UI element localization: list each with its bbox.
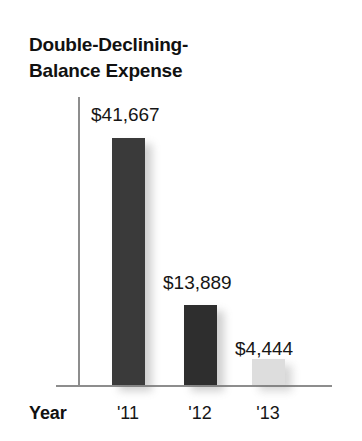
x-tick-label-2013: '13	[248, 403, 288, 424]
bar-fill	[112, 138, 145, 385]
bar-2011	[112, 138, 145, 385]
x-tick-label-2012: '12	[180, 403, 220, 424]
bar-2012	[184, 305, 217, 385]
bar-value-label-2013: $4,444	[235, 338, 293, 360]
plot-area: $41,667 $13,889 $4,444 Year '11 '12 '13	[0, 0, 362, 441]
bar-fill	[252, 359, 285, 385]
bar-2013	[252, 359, 285, 385]
bar-value-label-2012: $13,889	[163, 272, 232, 294]
bar-fill	[184, 305, 217, 385]
bar-value-label-2011: $41,667	[91, 104, 160, 126]
y-axis-line	[78, 97, 80, 386]
x-tick-label-2011: '11	[108, 403, 148, 424]
x-axis-title: Year	[29, 403, 67, 424]
double-declining-balance-expense-chart: Double-Declining- Balance Expense $41,66…	[0, 0, 362, 441]
